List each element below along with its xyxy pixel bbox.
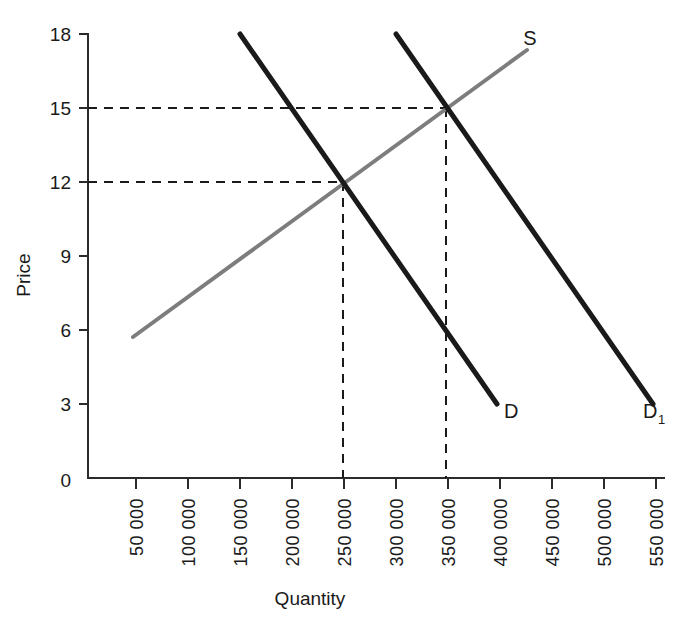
x-axis-ticks [136,478,656,489]
chart-canvas: 18 15 12 9 6 3 0 Price 50 000 100 [0,0,685,625]
x-tick-label-150000: 150 000 [231,498,251,567]
x-tick-label-200000: 200 000 [283,498,303,567]
x-tick-label-450000: 450 000 [543,498,563,567]
x-tick-label-100000: 100 000 [179,498,199,567]
x-axis-title: Quantity [275,588,346,609]
y-tick-label-6: 6 [60,320,71,341]
y-axis-ticks [79,34,88,404]
y-tick-label-3: 3 [60,394,71,415]
x-tick-label-250000: 250 000 [335,498,355,567]
demand-shifted-curve-label-group: D 1 [643,400,665,427]
x-tick-label-500000: 500 000 [595,498,615,567]
supply-curve-label: S [523,27,536,49]
y-tick-label-9: 9 [60,246,71,267]
demand-shifted-curve-label: D [643,400,657,422]
demand-curve-label: D [504,400,518,422]
y-axis-tick-labels: 18 15 12 9 6 3 0 [50,24,71,491]
y-tick-label-0: 0 [60,470,71,491]
x-tick-label-400000: 400 000 [491,498,511,567]
supply-demand-chart: 18 15 12 9 6 3 0 Price 50 000 100 [0,0,685,625]
x-tick-label-350000: 350 000 [439,498,459,567]
x-tick-label-550000: 550 000 [647,498,667,567]
demand-curve-line [240,34,497,404]
y-tick-label-15: 15 [50,98,71,119]
x-axis-tick-labels: 50 000 100 000 150 000 200 000 250 000 3… [127,498,667,567]
x-tick-label-50000: 50 000 [127,498,147,556]
y-tick-label-12: 12 [50,172,71,193]
y-tick-label-18: 18 [50,24,71,45]
demand-shifted-curve-line [396,34,653,404]
y-axis-title: Price [13,253,34,296]
supply-curve-line [133,50,527,337]
demand-shifted-curve-label-subscript: 1 [658,412,665,427]
x-tick-label-300000: 300 000 [387,498,407,567]
equilibrium-guides [88,108,446,478]
